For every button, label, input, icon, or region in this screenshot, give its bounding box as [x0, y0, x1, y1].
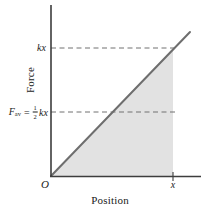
one-half-fraction: 1 2	[33, 105, 38, 120]
fav-subscript: av	[15, 110, 21, 117]
fraction-numerator: 1	[33, 105, 36, 112]
y-axis-title: Force	[25, 67, 36, 93]
fraction-denominator: 2	[33, 113, 36, 120]
origin-label: O	[41, 179, 49, 190]
spring-force-figure: Force Position O x kx Fav = 1 2 kx	[0, 0, 204, 212]
equals-sign: =	[24, 107, 30, 117]
fav-value-label: Fav = 1 2 kx	[9, 105, 48, 120]
fav-symbol: Fav	[9, 106, 21, 117]
x-tick-label: x	[171, 180, 175, 190]
x-axis-title: Position	[91, 195, 129, 206]
fav-kx-term: kx	[39, 107, 48, 117]
kx-value-label: kx	[37, 43, 46, 53]
